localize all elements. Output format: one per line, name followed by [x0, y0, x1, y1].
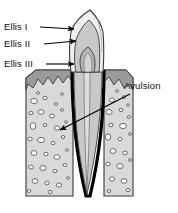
- leader-ellis-1-line: [40, 27, 74, 29]
- bone-left-outline: [26, 70, 73, 196]
- dental-trauma-diagram: Ellis I Ellis II Ellis III Avulsion: [0, 0, 178, 213]
- diagram-canvas: Ellis I Ellis II Ellis III Avulsion: [0, 0, 178, 213]
- label-ellis-1: Ellis I: [4, 21, 27, 32]
- label-avulsion: Avulsion: [124, 80, 161, 91]
- label-ellis-3: Ellis III: [4, 58, 33, 69]
- label-ellis-2: Ellis II: [4, 38, 30, 49]
- alveolar-bone-left: [26, 70, 73, 196]
- tooth-root: [74, 70, 102, 194]
